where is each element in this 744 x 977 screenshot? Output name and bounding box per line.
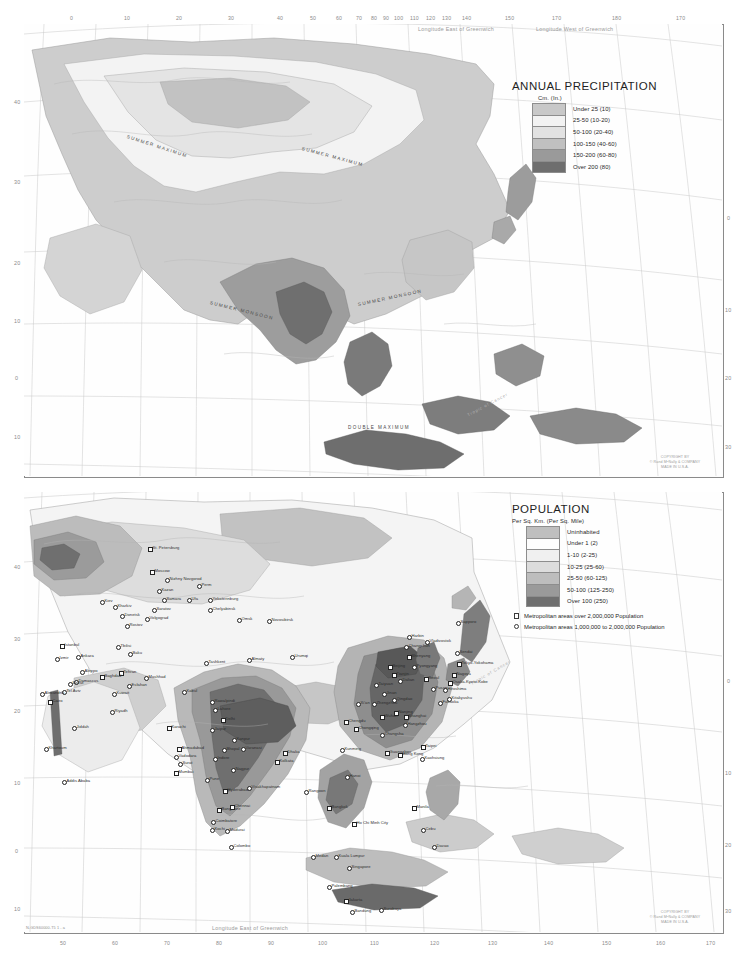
precip-top-tick-170: 170 [552,15,561,21]
precip-left-tick-10s: 10 [14,434,20,440]
precip-swatch-5 [532,161,566,173]
pop-swatch-1 [526,538,560,550]
precipitation-legend-subtitle: Cm. (In.) [538,95,657,101]
precip-swatch-2 [532,126,566,138]
plate-id-code: N-GDS60000-T5 1 - a [26,926,65,930]
precip-swatch-0 [532,103,566,115]
precipitation-copyright: COPYRIGHT BY © Rand MᴺNally & COMPANY MA… [628,455,722,471]
precip-top-tick-80: 80 [371,15,377,21]
pop-legend-row-5: 50-100 (125-250) [526,584,665,596]
pop-bottom-tick-160: 160 [656,940,665,946]
pop-left-tick-10s: 10 [14,906,20,912]
pop-swatch-4 [526,572,560,584]
pop-swatch-label-5: 50-100 (125-250) [567,587,614,593]
pop-legend-row-3: 10-25 (25-60) [526,561,665,573]
precip-swatch-3 [532,138,566,150]
pop-copyright-line-3: MADE IN U.S.A. [628,920,722,925]
pop-legend-row-0: Uninhabited [526,526,665,538]
pop-legend-metro-row-1: Metropolitan areas 1,000,000 to 2,000,00… [512,624,665,630]
precip-left-tick-40: 40 [14,99,20,105]
pop-swatch-2 [526,549,560,561]
precip-legend-row-5: Over 200 (80) [532,161,657,173]
precip-annotation-double-maximum: DOUBLE MAXIMUM [348,425,410,430]
metro-label-1: Metropolitan areas 1,000,000 to 2,000,00… [524,624,665,630]
precip-right-tick-0: 0 [727,215,730,221]
metro-square-icon [512,613,521,619]
pop-bottom-tick-100: 100 [318,940,327,946]
precip-left-tick-0: 0 [15,375,18,381]
pop-legend-row-4: 25-50 (60-125) [526,572,665,584]
pop-bottom-tick-140: 140 [544,940,553,946]
population-legend-title: POPULATION [512,503,665,515]
pop-bottom-tick-80: 80 [216,940,222,946]
pop-bottom-tick-110: 110 [370,940,379,946]
precip-top-tick-140: 140 [462,15,471,21]
pop-swatch-label-4: 25-50 (60-125) [567,575,607,581]
pop-legend-row-2: 1-10 (2-25) [526,549,665,561]
precip-top-tick-170w: 170 [676,15,685,21]
pop-swatch-0 [526,526,560,538]
precip-longitude-east-note: Longitude East of Greenwich [418,26,494,32]
precipitation-legend-title: ANNUAL PRECIPITATION [512,80,657,92]
pop-bottom-tick-60: 60 [112,940,118,946]
pop-swatch-label-0: Uninhabited [567,529,600,535]
precip-top-tick-150: 150 [505,15,514,21]
precip-longitude-west-note: Longitude West of Greenwich [536,26,613,32]
pop-right-tick-10: 10 [725,770,731,776]
precip-top-tick-110: 110 [410,15,419,21]
pop-bottom-tick-170: 170 [706,940,715,946]
precip-top-tick-30: 30 [228,15,234,21]
pop-bottom-tick-70: 70 [164,940,170,946]
pop-left-tick-30: 30 [14,636,20,642]
pop-swatch-label-2: 1-10 (2-25) [567,552,597,558]
pop-swatch-6 [526,596,560,608]
population-legend: POPULATION Per Sq. Km. (Per Sq. Mile) Un… [512,503,665,630]
precip-top-tick-70: 70 [356,15,362,21]
population-copyright: COPYRIGHT BY © Rand MᴺNally & COMPANY MA… [628,910,722,926]
metro-label-0: Metropolitan areas over 2,000,000 Popula… [524,613,643,619]
pop-longitude-east-note: Longitude East of Greenwich [212,925,288,931]
pop-right-tick-30: 30 [725,908,731,914]
precip-swatch-label-1: 25-50 (10-20) [573,117,610,123]
pop-bottom-tick-50: 50 [60,940,66,946]
pop-left-tick-20: 20 [14,708,20,714]
population-legend-subtitle: Per Sq. Km. (Per Sq. Mile) [512,518,665,524]
precip-copyright-line-3: MADE IN U.S.A. [628,465,722,470]
pop-swatch-label-1: Under 1 (2) [567,540,598,546]
precip-right-tick-20: 20 [725,375,731,381]
pop-swatch-label-3: 10-25 (25-60) [567,564,604,570]
precip-right-tick-10: 10 [725,307,731,313]
precip-legend-row-4: 150-200 (60-80) [532,149,657,161]
precip-legend-row-3: 100-150 (40-60) [532,138,657,150]
precip-top-tick-40: 40 [277,15,283,21]
precip-top-tick-50: 50 [310,15,316,21]
pop-swatch-label-6: Over 100 (250) [567,598,608,604]
precip-left-tick-30: 30 [14,179,20,185]
precip-top-tick-120: 120 [426,15,435,21]
precip-left-tick-20: 20 [14,260,20,266]
population-map-panel: 50 60 70 80 90 100 110 120 130 140 150 1… [0,488,744,977]
precip-top-tick-10: 10 [124,15,130,21]
pop-right-tick-0: 0 [727,678,730,684]
pop-right-tick-20: 20 [725,842,731,848]
atlas-page: 0 10 20 30 40 50 60 70 80 90 100 110 120… [0,0,744,977]
precip-swatch-1 [532,115,566,127]
precip-swatch-label-2: 50-100 (20-40) [573,129,613,135]
precip-left-tick-10: 10 [14,318,20,324]
precip-top-tick-20: 20 [176,15,182,21]
pop-left-tick-0: 0 [15,848,18,854]
precip-top-tick-180: 180 [612,15,621,21]
precip-top-tick-100: 100 [394,15,403,21]
precip-swatch-label-4: 150-200 (60-80) [573,152,617,158]
pop-left-tick-40: 40 [14,564,20,570]
pop-legend-metro-row-0: Metropolitan areas over 2,000,000 Popula… [512,613,665,619]
metro-circle-icon [512,624,521,630]
pop-bottom-tick-90: 90 [268,940,274,946]
pop-left-tick-10: 10 [14,780,20,786]
pop-bottom-tick-150: 150 [602,940,611,946]
precip-top-tick-130: 130 [442,15,451,21]
pop-legend-row-1: Under 1 (2) [526,538,665,550]
precipitation-legend: ANNUAL PRECIPITATION Cm. (In.) Under 25 … [512,80,657,173]
precip-legend-row-2: 50-100 (20-40) [532,126,657,138]
pop-bottom-tick-130: 130 [488,940,497,946]
